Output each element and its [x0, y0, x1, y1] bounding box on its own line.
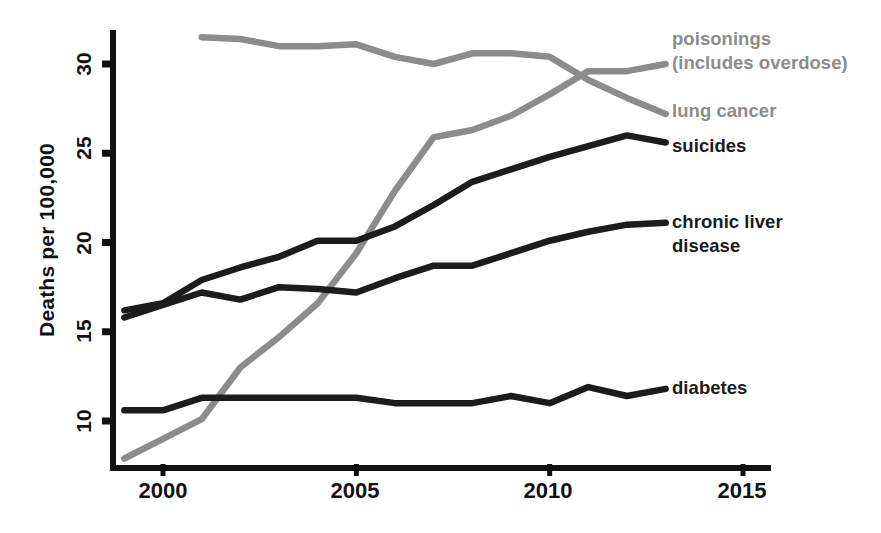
x-tick-label-2005: 2005 [315, 478, 395, 504]
data-series [124, 37, 665, 458]
series-line-diabetes [124, 387, 665, 410]
series-label-poisonings: poisonings (includes overdose) [672, 27, 848, 74]
y-tick-label-20: 20 [72, 221, 96, 265]
y-tick-label-10: 10 [72, 399, 96, 443]
series-line-lung-cancer [202, 37, 666, 114]
x-tick-label-2010: 2010 [508, 478, 588, 504]
plot-area [0, 0, 881, 533]
y-tick-label-15: 15 [72, 309, 96, 353]
series-label-lung-cancer: lung cancer [672, 99, 776, 123]
y-tick-label-30: 30 [72, 42, 96, 86]
series-label-chronic-liver-disease: chronic liver disease [672, 210, 783, 257]
series-line-suicides [124, 135, 665, 310]
chart-figure: Deaths per 100,000 30 25 20 15 10 2000 2… [0, 0, 881, 533]
x-tick-label-2000: 2000 [123, 478, 203, 504]
series-label-suicides: suicides [672, 134, 746, 158]
y-axis-title: Deaths per 100,000 [35, 115, 59, 365]
y-tick-label-25: 25 [72, 126, 96, 170]
series-label-diabetes: diabetes [672, 376, 747, 400]
x-tick-label-2015: 2015 [702, 478, 782, 504]
series-line-chronic-liver-disease [124, 223, 665, 318]
